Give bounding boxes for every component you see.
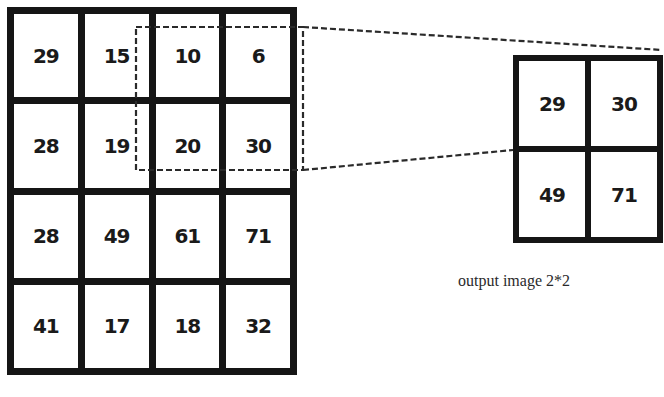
input-cell: 71 <box>226 195 290 278</box>
input-cell: 6 <box>226 14 290 97</box>
output-caption: output image 2*2 <box>458 272 570 290</box>
input-cell: 19 <box>85 104 149 187</box>
input-cell: 28 <box>14 104 78 187</box>
input-cell: 17 <box>85 285 149 368</box>
output-cell: 30 <box>591 61 657 146</box>
input-cell: 20 <box>156 104 220 187</box>
input-cell: 10 <box>156 14 220 97</box>
input-cell: 15 <box>85 14 149 97</box>
output-cell: 49 <box>519 152 585 237</box>
input-cell: 18 <box>156 285 220 368</box>
input-cell: 28 <box>14 195 78 278</box>
output-grid: 29 30 49 71 <box>513 55 663 243</box>
connector-line-top <box>303 27 662 50</box>
input-grid: 29 15 10 6 28 19 20 30 28 49 61 71 41 17… <box>7 7 297 375</box>
input-cell: 61 <box>156 195 220 278</box>
connector-line-bottom <box>303 150 513 170</box>
output-cell: 71 <box>591 152 657 237</box>
input-cell: 30 <box>226 104 290 187</box>
input-cell: 49 <box>85 195 149 278</box>
input-cell: 41 <box>14 285 78 368</box>
input-cell: 29 <box>14 14 78 97</box>
output-cell: 29 <box>519 61 585 146</box>
input-cell: 32 <box>226 285 290 368</box>
